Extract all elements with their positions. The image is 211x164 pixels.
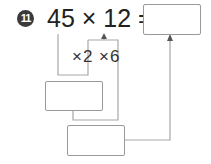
equation-text: 45 × 12 = — [47, 4, 153, 33]
problem-number-badge: 11 — [17, 10, 34, 27]
arrow-up-icon-answer — [167, 34, 173, 41]
intermediate-box-bottom[interactable] — [67, 125, 125, 156]
arrow-up-icon-12 — [101, 33, 107, 39]
connector-bottom-to-answer — [124, 40, 170, 140]
answer-box[interactable] — [143, 4, 201, 35]
intermediate-box-top[interactable] — [45, 81, 103, 111]
hint-multipliers: ×2 ×6 — [72, 47, 121, 67]
